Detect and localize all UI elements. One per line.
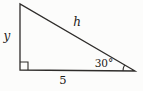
label-hypotenuse: h — [73, 15, 81, 29]
diagram-canvas: y h 30° 5 — [0, 0, 143, 91]
right-triangle-diagram: y h 30° 5 — [0, 0, 143, 91]
label-vertical-leg: y — [3, 29, 11, 43]
label-base: 5 — [59, 73, 66, 87]
angle-arc — [123, 65, 125, 71]
label-angle: 30° — [95, 57, 114, 69]
right-angle-marker — [20, 62, 28, 70]
